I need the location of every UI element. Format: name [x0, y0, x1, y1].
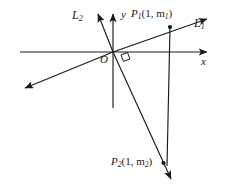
line-l2-upper: [98, 14, 113, 52]
label-y-axis: y: [121, 9, 126, 20]
point-p2-dot: [161, 161, 165, 165]
line-l1-upper: [113, 19, 207, 52]
label-line-l1: L1: [194, 17, 205, 31]
label-point-p1: P1(1, m1): [131, 8, 172, 20]
geometry-figure: L1 L2 y x O P1(1, m1) P2(1, m2): [0, 0, 225, 186]
segment-p1-p2: [167, 27, 170, 166]
label-x-axis: x: [201, 56, 206, 67]
label-line-l2: L2: [72, 9, 83, 23]
right-angle-marker: [121, 53, 130, 62]
label-point-p2: P2(1, m2): [111, 156, 152, 168]
point-p1-dot: [168, 25, 172, 29]
label-origin: O: [100, 54, 108, 65]
